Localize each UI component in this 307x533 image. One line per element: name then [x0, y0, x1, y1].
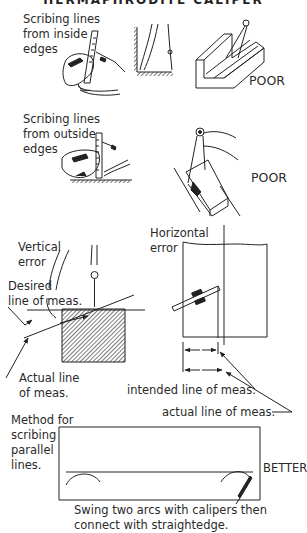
hand-scale-drawing-2	[62, 133, 132, 183]
horizontal-error-diagram	[172, 225, 292, 412]
vertical-error-diagram	[6, 245, 145, 378]
illustration-canvas	[0, 0, 307, 533]
inside-edge-detail-drawing	[134, 24, 173, 76]
parallel-lines-diagram	[59, 427, 260, 504]
hand-scale-drawing-1	[63, 31, 125, 95]
outside-edge-caliper-drawing	[174, 128, 240, 216]
angle-block-caliper-drawing	[196, 20, 264, 88]
